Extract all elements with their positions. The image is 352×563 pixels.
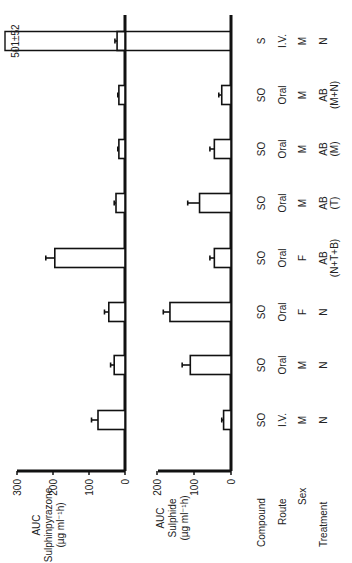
cell-route: Oral (277, 303, 288, 322)
cell-compound: SO (256, 196, 267, 211)
top-panel: 0100200300 AUC Sulphinpyrazone (µg ml⁻¹h… (12, 15, 131, 562)
cell-sex: M (297, 361, 308, 369)
cell-route: Oral (277, 194, 288, 213)
top-bar (114, 356, 125, 375)
bottom-y-ticks: 0100200 (152, 471, 237, 496)
bottom-bar (214, 249, 231, 268)
cell-compound: S (256, 37, 267, 44)
cell-sex: M (297, 199, 308, 207)
top-bar (117, 32, 125, 51)
cell-treatment: AB (318, 88, 329, 102)
top-bar-group (111, 356, 125, 375)
cell-treatment: N (318, 416, 329, 423)
figure-canvas: 0100200300 AUC Sulphinpyrazone (µg ml⁻¹h… (0, 0, 352, 563)
cell-route: Oral (277, 140, 288, 159)
cell-route: I.V. (277, 34, 288, 48)
top-bar (116, 194, 125, 213)
rotated-figure: 0100200300 AUC Sulphinpyrazone (µg ml⁻¹h… (0, 0, 352, 563)
bottom-ylabel-line3: (µg ml⁻¹h) (179, 495, 190, 540)
table-column: SOI.V.MN (256, 413, 329, 428)
top-ylabel-line2: Sulphinpyrazone (43, 487, 54, 562)
cell-route: Oral (277, 86, 288, 105)
table-column: SOOralMAB(M) (256, 140, 340, 159)
bottom-tick-label-200: 200 (152, 479, 163, 496)
cell-sex: M (297, 37, 308, 45)
top-bar-group (104, 303, 125, 322)
top-bar-group (114, 194, 125, 213)
cell-sex: F (297, 255, 308, 261)
top-bar-group (118, 86, 125, 105)
cell-compound: SO (256, 142, 267, 157)
cell-treatment: AB (318, 142, 329, 156)
top-y-ticks: 0100200300 (12, 471, 131, 496)
bottom-bar (170, 303, 231, 322)
top-bar-group (118, 140, 125, 159)
cell-treatment: AB (318, 251, 329, 265)
bottom-bar (214, 140, 231, 159)
top-bar (55, 249, 125, 268)
bottom-bar-group (163, 303, 231, 322)
cell-compound: SO (256, 358, 267, 373)
cell-route: Oral (277, 249, 288, 268)
cell-treatment-detail: (N+T+B) (329, 239, 340, 277)
cell-sex: M (297, 145, 308, 153)
top-tick-label-300: 300 (12, 479, 23, 496)
table-column: SOOralFAB(N+T+B) (256, 239, 340, 277)
bottom-bar (224, 411, 231, 430)
cell-compound: SO (256, 88, 267, 103)
row-label-compound: Compound (256, 498, 267, 547)
cell-sex: F (297, 309, 308, 315)
cell-route: I.V. (277, 413, 288, 427)
bottom-tick-label-0: 0 (226, 479, 237, 485)
cell-compound: SO (256, 305, 267, 320)
bottom-bar-group (222, 411, 231, 430)
cell-treatment-detail: (M+N) (329, 81, 340, 109)
annotation-501: 501±52 (10, 24, 21, 58)
bottom-ylabel-line2: Sulphide (167, 498, 178, 537)
top-tick-label-100: 100 (84, 479, 95, 496)
bottom-ylabel-line1: AUC (155, 507, 166, 528)
bottom-bar-group (210, 249, 231, 268)
top-bar-group (46, 249, 125, 268)
cell-treatment-detail: (T) (329, 197, 340, 210)
table-column: SOOralMAB(T) (256, 194, 340, 213)
top-tick-label-0: 0 (120, 479, 131, 485)
row-label-route: Route (277, 498, 288, 525)
table-columns: SOI.V.MNSOOralMNSOOralFNSOOralFAB(N+T+B)… (256, 34, 340, 427)
cell-treatment: N (318, 37, 329, 44)
top-ylabel-line3: (µg ml⁻¹h) (55, 502, 66, 547)
cell-treatment: N (318, 308, 329, 315)
top-bars (46, 32, 125, 430)
cell-compound: SO (256, 251, 267, 266)
bottom-bar-group (210, 140, 231, 159)
top-bar (119, 86, 125, 105)
bottom-tick-label-100: 100 (189, 479, 200, 496)
row-label-sex: Sex (297, 488, 308, 505)
top-bar-group (115, 32, 125, 51)
top-bar (119, 140, 125, 159)
table-column: SI.V.MN (256, 34, 329, 48)
bottom-bar (200, 194, 231, 213)
row-label-treatment: Treatment (318, 502, 329, 547)
cell-route: Oral (277, 356, 288, 375)
table-column: SOOralMAB(M+N) (256, 81, 340, 109)
top-bar (109, 303, 125, 322)
cell-treatment: AB (318, 196, 329, 210)
bottom-bar-group (219, 86, 231, 105)
cell-compound: SO (256, 413, 267, 428)
cell-treatment: N (318, 361, 329, 368)
cell-treatment-detail: (M) (329, 142, 340, 157)
top-ylabel-line1: AUC (31, 514, 42, 535)
bottom-bar (190, 356, 231, 375)
bottom-bar (222, 86, 231, 105)
table-column: SOOralMN (256, 356, 329, 375)
bottom-bar-group (182, 356, 231, 375)
table-column: SOOralFN (256, 303, 329, 322)
top-bar (98, 411, 125, 430)
cell-sex: M (297, 91, 308, 99)
top-bar-group (92, 411, 125, 430)
condition-table: Compound Route Sex Treatment SOI.V.MNSOO… (256, 34, 340, 547)
bottom-bar-group (188, 194, 231, 213)
cell-sex: M (297, 416, 308, 424)
